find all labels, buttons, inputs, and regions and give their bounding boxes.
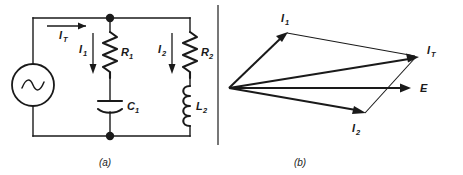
current-it-arrow: [47, 23, 86, 30]
figure-container: R 1 C 1 R 2 L 2: [0, 0, 463, 175]
inductor-l2-subscript: 2: [202, 106, 208, 115]
panel-b-caption: (b): [294, 157, 306, 168]
phasor-i2-vector: [229, 88, 366, 114]
inductor-l2-symbol: [183, 86, 190, 126]
phasor-e-label: E: [420, 82, 428, 94]
phasor-i2-shaft: [229, 88, 356, 110]
capacitor-c1-plate-bottom: [98, 109, 122, 113]
resistor-r2-zigzag: [183, 32, 197, 78]
circuit-schematic-panel: R 1 C 1 R 2 L 2: [12, 14, 214, 168]
current-i1-arrow-head: [90, 64, 97, 74]
resistor-r1-symbol: [103, 32, 117, 78]
phasor-e-arrowhead: [400, 84, 411, 93]
current-i2-arrow: [169, 33, 176, 74]
capacitor-c1-symbol: [98, 101, 122, 113]
current-i1-arrow: [90, 33, 97, 74]
resistor-r2-symbol: [183, 32, 197, 78]
current-i2-arrow-head: [169, 64, 176, 74]
capacitor-c1-subscript: 1: [135, 106, 139, 115]
panel-a-caption: (a): [99, 157, 111, 168]
construction-line-i2-to-it: [365, 58, 415, 113]
resistor-r1-subscript: 1: [129, 52, 133, 61]
inductor-l2-label: L: [196, 100, 203, 112]
phasor-e-vector: [229, 84, 411, 93]
resistor-r2-subscript: 2: [208, 52, 214, 61]
phasor-i1-subscript: 1: [285, 18, 289, 27]
node-dot-bottom: [106, 132, 114, 140]
phasor-i2-arrowhead: [352, 106, 366, 114]
ac-source-symbol: [12, 64, 54, 106]
phasor-it-vector: [229, 54, 419, 89]
current-i2-subscript: 2: [161, 49, 167, 58]
node-dot-top: [106, 14, 114, 22]
figure-svg: R 1 C 1 R 2 L 2: [0, 0, 463, 175]
phasor-i2-subscript: 2: [355, 128, 361, 137]
current-it-subscript: T: [63, 35, 69, 44]
phasor-diagram-panel: E I 1 I T I 2 (b): [229, 12, 437, 168]
resistor-r1-label: R: [121, 46, 129, 58]
circuit-wiring: [33, 18, 190, 136]
resistor-r2-label: R: [201, 46, 209, 58]
current-i1-subscript: 1: [83, 49, 87, 58]
inductor-l2-coils: [183, 86, 190, 126]
resistor-r1-zigzag: [103, 32, 117, 78]
phasor-it-subscript: T: [431, 50, 437, 59]
construction-line-i1-to-it: [287, 33, 415, 56]
current-it-arrow-head: [78, 23, 86, 30]
